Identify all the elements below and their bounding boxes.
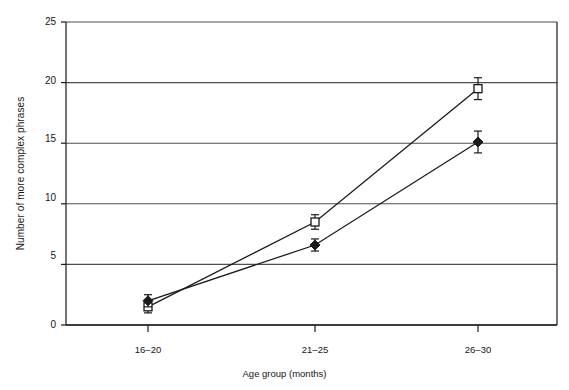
marker-filled-diamond-1	[310, 240, 320, 250]
series-line-open-square-series	[148, 89, 478, 307]
marker-filled-diamond-2	[473, 137, 483, 147]
chart-figure: Number of more complex phrases 25 20 15 …	[0, 0, 569, 390]
marker-open-square-2	[474, 85, 482, 93]
marker-open-square-1	[311, 218, 319, 226]
plot-area	[0, 0, 569, 390]
